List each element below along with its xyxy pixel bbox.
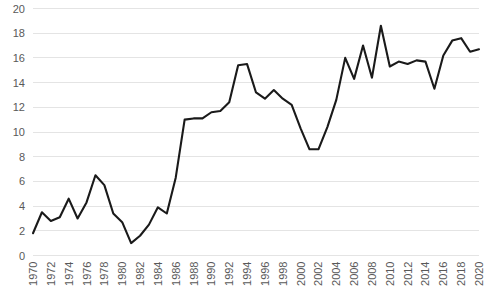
x-axis-tick-label: 1980 [116, 262, 128, 286]
x-axis-tick-label: 2020 [473, 262, 485, 286]
x-axis-tick-label: 2018 [455, 262, 467, 286]
x-axis-tick-label: 1970 [27, 262, 39, 286]
x-axis-tick-label: 1988 [188, 262, 200, 286]
y-axis-tick-label: 10 [13, 126, 25, 138]
x-axis-tick-labels: 1970197219741976197819801982198419861988… [27, 262, 485, 286]
y-axis-tick-label: 18 [13, 27, 25, 39]
x-axis-tick-label: 1990 [205, 262, 217, 286]
gridlines [33, 9, 479, 256]
y-axis-tick-label: 6 [19, 175, 25, 187]
y-axis-tick-label: 12 [13, 101, 25, 113]
x-axis-tick-label: 1992 [223, 262, 235, 286]
x-axis-tick-label: 2014 [419, 262, 431, 286]
x-axis-tick-label: 2016 [437, 262, 449, 286]
x-axis-tick-label: 1996 [259, 262, 271, 286]
y-axis-tick-label: 0 [19, 250, 25, 262]
x-axis-tick-label: 1972 [45, 262, 57, 286]
x-axis-tick-label: 2010 [384, 262, 396, 286]
x-axis-tick-label: 2008 [366, 262, 378, 286]
chart-canvas: 02468101214161820 1970197219741976197819… [0, 0, 485, 306]
y-axis-tick-label: 2 [19, 225, 25, 237]
x-axis-tick-label: 2002 [312, 262, 324, 286]
x-axis-tick-label: 1994 [241, 262, 253, 286]
x-axis-tick-label: 1978 [98, 262, 110, 286]
x-axis-tick-label: 1986 [170, 262, 182, 286]
y-axis-tick-label: 16 [13, 52, 25, 64]
x-axis-tick-label: 1976 [81, 262, 93, 286]
y-axis-tick-labels: 02468101214161820 [13, 3, 25, 262]
y-axis-tick-label: 20 [13, 3, 25, 15]
y-axis-tick-label: 14 [13, 77, 25, 89]
x-axis-tick-label: 2006 [348, 262, 360, 286]
y-axis-tick-label: 4 [19, 200, 25, 212]
x-axis-tick-label: 1998 [277, 262, 289, 286]
y-axis-tick-label: 8 [19, 151, 25, 163]
x-axis-tick-label: 1984 [152, 262, 164, 286]
x-axis-tick-label: 1982 [134, 262, 146, 286]
line-chart: 02468101214161820 1970197219741976197819… [0, 0, 485, 306]
x-axis-tick-label: 2012 [402, 262, 414, 286]
x-axis-tick-label: 2004 [330, 262, 342, 286]
x-axis-tick-label: 2000 [295, 262, 307, 286]
x-axis-tick-label: 1974 [63, 262, 75, 286]
